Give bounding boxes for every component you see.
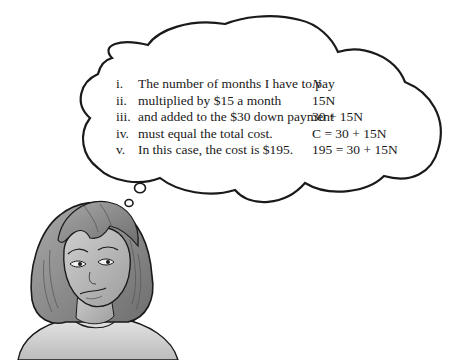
girl-illustration-icon <box>0 0 462 360</box>
illustration-scene: i. The number of months I have to pay N … <box>0 0 462 360</box>
